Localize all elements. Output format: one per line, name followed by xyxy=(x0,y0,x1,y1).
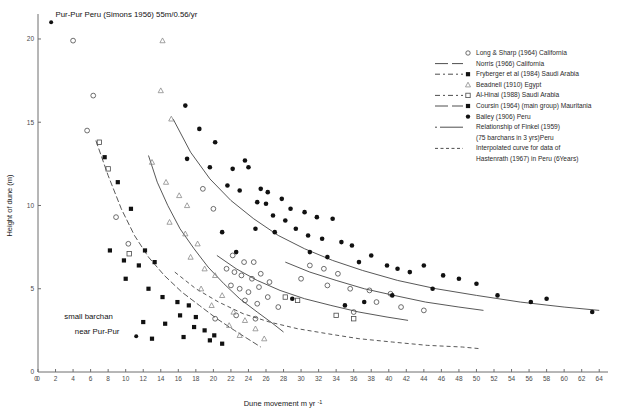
datapoint-bailey xyxy=(395,266,400,271)
x-tick-label: 48 xyxy=(455,375,463,382)
datapoint-al_hinai xyxy=(295,298,299,302)
legend-label-5[interactable]: Coursin (1964) (main group) Mauritania xyxy=(476,102,592,110)
legend-label-10[interactable]: Hastenrath (1967) in Peru (6Years) xyxy=(476,155,578,163)
datapoint-bailey xyxy=(272,230,277,235)
x-tick-label: 34 xyxy=(333,375,341,382)
legend-label-1[interactable]: Norris (1966) California xyxy=(476,60,544,68)
x-tick-label: 32 xyxy=(315,375,323,382)
datapoint-fryberger xyxy=(160,295,164,299)
datapoint-bailey xyxy=(271,213,276,218)
datapoint-bailey xyxy=(234,250,239,255)
x-tick-label: 52 xyxy=(490,375,498,382)
origin-label: 0 xyxy=(34,375,38,382)
x-tick-label: 28 xyxy=(280,375,288,382)
datapoint-long_sharp xyxy=(348,286,353,291)
datapoint-beadnell xyxy=(163,179,168,184)
datapoint-fryberger xyxy=(203,328,207,332)
x-tick-label: 12 xyxy=(140,375,148,382)
datapoint-bailey xyxy=(306,233,311,238)
datapoint-al_hinai xyxy=(106,167,110,171)
x-tick-label: 14 xyxy=(157,375,165,382)
datapoint-long_sharp xyxy=(251,260,256,265)
legend-label-2[interactable]: Fryberger et al (1984) Saudi Arabia xyxy=(476,70,579,78)
small-barchan-label-line1: small barchan xyxy=(64,312,113,321)
legend-label-3[interactable]: Beadnell (1910) Egypt xyxy=(476,81,541,89)
pur-pur-marker xyxy=(49,20,53,24)
datapoint-bailey xyxy=(302,210,307,215)
datapoint-beadnell xyxy=(160,38,165,43)
datapoint-long_sharp xyxy=(307,263,312,268)
datapoint-fryberger xyxy=(208,338,212,342)
legend-label-9[interactable]: Interpolated curve for data of xyxy=(476,144,560,152)
hastenrath-curve xyxy=(175,272,480,349)
datapoint-long_sharp xyxy=(232,270,237,275)
datapoint-long_sharp xyxy=(399,305,404,310)
datapoint-bailey xyxy=(264,202,269,207)
datapoint-long_sharp xyxy=(71,38,76,43)
chart-svg: 0246810121416182022242628303234363840424… xyxy=(0,0,617,419)
datapoint-bailey xyxy=(197,127,202,132)
datapoint-fryberger xyxy=(194,315,198,319)
x-tick-label: 8 xyxy=(106,375,110,382)
datapoint-bailey xyxy=(343,303,348,308)
legend-label-0[interactable]: Long & Sharp (1964) California xyxy=(476,49,567,57)
datapoint-fryberger xyxy=(187,303,191,307)
datapoint-bailey xyxy=(369,253,374,258)
x-tick-label: 44 xyxy=(420,375,428,382)
legend-label-8[interactable]: (75 barchans in 3 yrs)Peru xyxy=(476,134,554,142)
datapoint-bailey xyxy=(243,158,248,163)
datapoint-long_sharp xyxy=(200,186,205,191)
legend-marker-2 xyxy=(466,72,470,76)
legend-marker-3 xyxy=(466,82,471,87)
x-tick-label: 36 xyxy=(350,375,358,382)
datapoint-beadnell xyxy=(177,193,182,198)
legend-marker-0 xyxy=(466,51,470,55)
legend-marker-6 xyxy=(466,114,470,118)
datapoint-beadnell xyxy=(202,266,207,271)
datapoint-fryberger xyxy=(153,260,157,264)
datapoint-beadnell xyxy=(167,219,172,224)
legend-label-6[interactable]: Bailey (1906) Peru xyxy=(476,113,531,121)
x-tick-label: 62 xyxy=(578,375,586,382)
datapoint-fryberger xyxy=(146,287,150,291)
datapoint-beadnell xyxy=(213,273,218,278)
x-tick-label: 40 xyxy=(385,375,393,382)
pur-pur-label: Pur-Pur Peru (Simons 1956) 55m/0.56/yr xyxy=(56,10,198,19)
legend-label-7[interactable]: Relationship of Finkel (1959) xyxy=(476,123,560,131)
datapoint-bailey xyxy=(253,227,258,232)
datapoint-bailey xyxy=(474,281,479,286)
datapoint-bailey xyxy=(290,296,295,301)
datapoint-bailey xyxy=(237,188,242,193)
datapoint-bailey xyxy=(357,260,362,265)
x-tick-label: 30 xyxy=(297,375,305,382)
datapoint-bailey xyxy=(213,140,218,145)
datapoint-bailey xyxy=(288,207,293,212)
datapoint-al_hinai xyxy=(283,295,287,299)
x-tick-label: 60 xyxy=(561,375,569,382)
x-axis-title: Dune movement m yr -1 xyxy=(244,399,323,409)
legend-marker-4 xyxy=(466,93,470,97)
datapoint-beadnell xyxy=(220,293,225,298)
datapoint-fryberger xyxy=(143,248,147,252)
datapoint-long_sharp xyxy=(253,316,258,321)
datapoint-fryberger xyxy=(141,320,145,324)
dune-height-vs-movement-chart: 0246810121416182022242628303234363840424… xyxy=(0,0,617,419)
datapoint-bailey xyxy=(283,218,288,223)
datapoint-bailey xyxy=(408,270,413,275)
x-tick-label: 46 xyxy=(438,375,446,382)
datapoint-bailey xyxy=(279,197,284,202)
datapoint-fryberger xyxy=(103,155,107,159)
legend-label-4[interactable]: Al-Hinai (1988) Saudi Arabia xyxy=(476,91,560,99)
datapoint-beadnell xyxy=(199,286,204,291)
datapoint-bailey xyxy=(495,293,500,298)
datapoint-fryberger xyxy=(192,325,196,329)
datapoint-bailey xyxy=(185,157,190,162)
datapoint-long_sharp xyxy=(258,271,263,276)
x-tick-label: 20 xyxy=(210,375,218,382)
x-tick-label: 38 xyxy=(368,375,376,382)
datapoint-bailey xyxy=(220,230,225,235)
datapoint-long_sharp xyxy=(239,273,244,278)
datapoint-bailey xyxy=(294,227,299,232)
datapoint-bailey xyxy=(385,263,390,268)
datapoint-long_sharp xyxy=(91,93,96,98)
